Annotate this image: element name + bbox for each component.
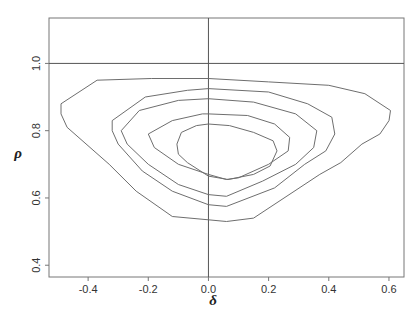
x-axis-title: δ — [209, 292, 217, 308]
y-tick-label: 1.0 — [30, 56, 42, 71]
y-tick-label: 0.6 — [30, 190, 42, 205]
plot-frame — [49, 18, 404, 277]
y-axis-title: ρ — [13, 145, 22, 161]
x-tick-label: 0.4 — [321, 283, 336, 295]
contour-level-5 — [177, 124, 277, 180]
x-tick-label: -0.4 — [79, 283, 98, 295]
contour-plot: -0.4-0.20.00.20.40.6 0.40.60.81.0 δ ρ — [0, 0, 418, 316]
x-tick-label: 0.2 — [261, 283, 276, 295]
y-tick-label: 0.8 — [30, 123, 42, 138]
x-axis-ticks: -0.4-0.20.00.20.40.6 — [79, 277, 397, 295]
contour-lines — [61, 79, 391, 222]
y-tick-label: 0.4 — [30, 258, 42, 273]
y-axis-ticks: 0.40.60.81.0 — [30, 56, 49, 273]
x-tick-label: -0.2 — [139, 283, 158, 295]
contour-level-4 — [148, 114, 289, 180]
x-tick-label: 0.6 — [381, 283, 396, 295]
reference-lines — [49, 18, 404, 277]
contour-level-2 — [112, 89, 335, 207]
contour-level-3 — [121, 99, 317, 197]
